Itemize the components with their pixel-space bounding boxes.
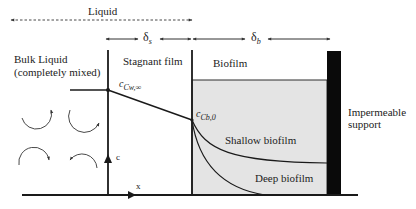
c-cb0-label: cCb,0 xyxy=(196,108,216,124)
mixing-arrows-icon xyxy=(19,110,99,168)
delta-b-label: δb xyxy=(251,31,261,48)
c-axis-arrow-icon xyxy=(104,154,112,163)
delta-b-subscript: b xyxy=(257,37,261,46)
x-axis-arrow-icon xyxy=(128,191,136,199)
shallow-biofilm-label: Shallow biofilm xyxy=(225,134,296,146)
deep-biofilm-label: Deep biofilm xyxy=(255,172,313,184)
bulk-liquid-label: Bulk Liquid xyxy=(14,53,67,65)
biofilm-label: Biofilm xyxy=(213,57,247,69)
x-axis-label: x xyxy=(136,180,141,192)
diagram-canvas xyxy=(0,0,416,209)
liquid-label: Liquid xyxy=(88,5,117,17)
impermeable-support xyxy=(327,51,341,195)
impermeable-label: Impermeable xyxy=(348,106,406,118)
support-label: support xyxy=(348,118,381,130)
c-cw-inf-subscript: Cw,∞ xyxy=(123,83,141,92)
delta-s-label: δs xyxy=(143,31,152,48)
c-axis-label: c xyxy=(116,151,120,163)
bulk-liquid-sublabel: (completely mixed) xyxy=(14,66,100,78)
c-cw-inf-label: cCw,∞ xyxy=(119,78,141,94)
delta-s-subscript: s xyxy=(149,37,152,46)
stagnant-film-label: Stagnant film xyxy=(123,55,183,67)
c-cb0-subscript: Cb,0 xyxy=(200,113,215,122)
